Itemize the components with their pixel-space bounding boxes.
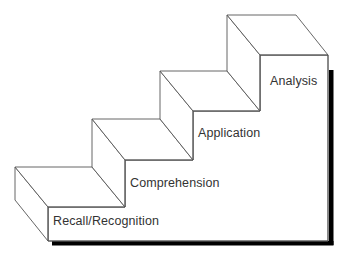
step-label-comprehension: Comprehension: [130, 177, 220, 190]
step-label-recall-recognition: Recall/Recognition: [53, 215, 159, 228]
staircase-diagram: [0, 0, 345, 255]
step-label-analysis: Analysis: [270, 75, 317, 88]
step-label-application: Application: [198, 127, 260, 140]
